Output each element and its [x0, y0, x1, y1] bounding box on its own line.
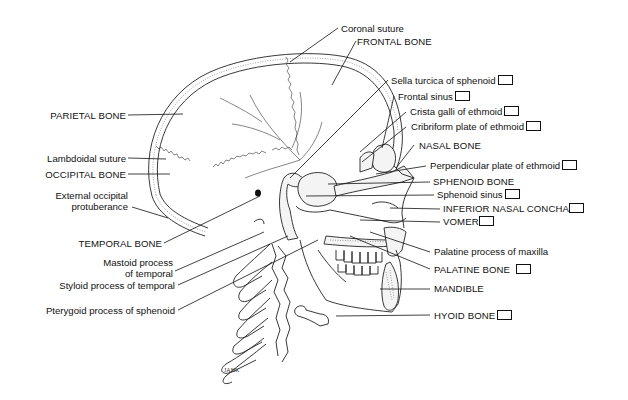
styloid-curl — [254, 219, 264, 224]
answer-checkbox-cribriform-plate[interactable] — [526, 121, 541, 131]
frontal-sinus-outline — [372, 144, 396, 172]
label-external-occipital-protuberance: External occipital protuberance — [55, 190, 128, 212]
cervical-spine — [222, 244, 290, 384]
label-parietal-bone: PARIETAL BONE — [50, 110, 126, 121]
label-inferior-nasal-concha: INFERIOR NASAL CONCHA — [443, 203, 584, 214]
label-sphenoid-sinus: Sphenoid sinus — [437, 189, 520, 200]
leader-lines-right — [290, 28, 440, 316]
teeth — [336, 250, 382, 275]
coronal-suture-line — [286, 57, 299, 155]
label-sella-turcica: Sella turcica of sphenoid — [391, 75, 513, 86]
label-crista-galli: Crista galli of ethmoid — [410, 106, 519, 117]
label-palatine-process: Palatine process of maxilla — [434, 246, 548, 257]
mastoid-mark — [255, 190, 261, 197]
label-hyoid-bone: HYOID BONE — [434, 310, 512, 321]
cranial-vault — [149, 54, 403, 236]
label-mastoid-process: Mastoid process of temporal — [103, 257, 173, 279]
label-pterygoid-process: Pterygoid process of sphenoid — [46, 305, 175, 316]
label-palatine-bone: PALATINE BONE — [434, 264, 531, 275]
label-frontal-bone: FRONTAL BONE — [357, 36, 432, 47]
label-styloid-process: Styloid process of temporal — [59, 280, 175, 291]
label-perpendicular-plate: Perpendicular plate of ethmoid — [430, 160, 577, 171]
label-mandible: MANDIBLE — [434, 283, 484, 294]
answer-checkbox-crista-galli[interactable] — [504, 106, 519, 116]
label-nasal-bone: NASAL BONE — [419, 140, 481, 151]
answer-checkbox-palatine-bone[interactable] — [516, 264, 531, 274]
hyoid-outline — [295, 306, 329, 326]
artist-signature: JAHK — [224, 367, 240, 373]
label-vomer: VOMER — [443, 216, 494, 227]
meningeal-grooves — [220, 92, 322, 178]
label-occipital-bone: OCCIPITAL BONE — [45, 169, 126, 180]
answer-checkbox-frontal-sinus[interactable] — [455, 91, 470, 101]
label-frontal-sinus: Frontal sinus — [398, 91, 470, 102]
answer-checkbox-perpendicular-plate[interactable] — [562, 160, 577, 170]
answer-checkbox-sella-turcica[interactable] — [498, 75, 513, 85]
answer-checkbox-inferior-nasal-concha[interactable] — [569, 203, 584, 213]
answer-checkbox-hyoid-bone[interactable] — [497, 310, 512, 320]
label-temporal-bone: TEMPORAL BONE — [78, 238, 162, 249]
label-sphenoid-bone: SPHENOID BONE — [433, 176, 514, 187]
answer-checkbox-vomer[interactable] — [479, 216, 494, 226]
answer-checkbox-sphenoid-sinus[interactable] — [505, 189, 520, 199]
label-coronal-suture: Coronal suture — [341, 23, 404, 34]
maxilla-region — [324, 202, 406, 256]
label-cribriform-plate: Cribriform plate of ethmoid — [411, 121, 541, 132]
label-lambdoidal-suture: Lambdoidal suture — [47, 153, 126, 164]
